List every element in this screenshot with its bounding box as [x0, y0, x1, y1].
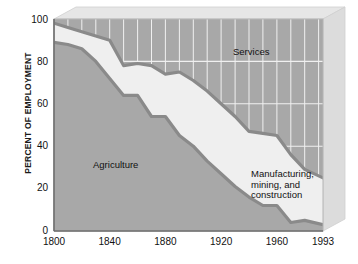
chart-figure: PERCENT OF EMPLOYMENT 100 80 60 40 20 0 [0, 0, 358, 264]
x-tick-1880: 1880 [145, 236, 185, 247]
chart-plot-area [0, 0, 358, 264]
x-tick-1840: 1840 [90, 236, 130, 247]
x-tick-1960: 1960 [257, 236, 297, 247]
box-top-face [54, 7, 345, 19]
box-right-face [323, 7, 345, 231]
manufacturing-label: Manufacturing, mining, and construction [251, 169, 314, 201]
x-tick-1993: 1993 [303, 236, 343, 247]
services-label: Services [233, 47, 269, 58]
x-tick-1920: 1920 [201, 236, 241, 247]
agriculture-label: Agriculture [93, 160, 138, 171]
x-tick-1800: 1800 [34, 236, 74, 247]
